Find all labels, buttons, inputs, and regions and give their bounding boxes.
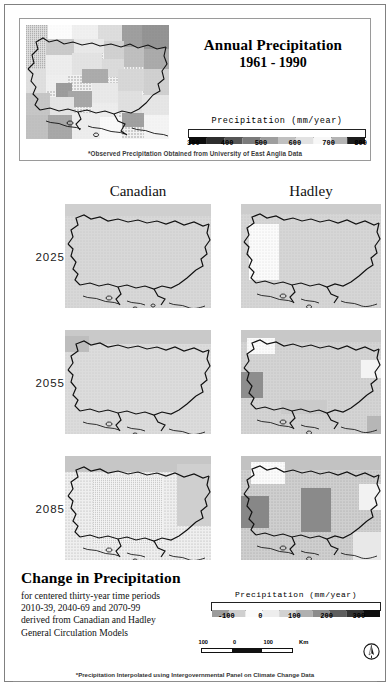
compass-rose-svg <box>363 643 380 660</box>
observed-tick-600: 600 <box>288 139 301 147</box>
scale-bar-graphic <box>201 648 293 653</box>
map-hadley-2085 <box>241 456 381 560</box>
map-canadian-2085-svg <box>65 456 211 560</box>
scale-bar-numbers: 100 0 100 <box>201 639 313 648</box>
map-canadian-2025 <box>65 204 211 308</box>
bottom-desc-line1: for centered thirty-year time periods <box>21 590 211 602</box>
observed-legend: Precipitation (mm/year) 300 400 <box>188 116 366 150</box>
observed-title-line2: 1961 - 1990 <box>180 54 366 71</box>
change-tick-300: 300 <box>353 612 366 620</box>
bottom-title: Change in Precipitation <box>21 569 181 587</box>
observed-title-line1: Annual Precipitation <box>180 37 366 54</box>
row-label-2085: 2085 <box>21 503 65 515</box>
change-tick-0: 0 <box>258 612 262 620</box>
observed-footnote: *Observed Precipitation Obtained from Un… <box>20 150 370 157</box>
map-hadley-2055 <box>241 330 381 434</box>
observed-precipitation-map <box>26 25 169 139</box>
scale-tick-zero: 0 <box>233 639 236 645</box>
map-hadley-2085-svg <box>241 456 381 560</box>
row-label-2025: 2025 <box>21 251 65 263</box>
map-hadley-2055-svg <box>241 330 381 434</box>
observed-tick-700: 700 <box>322 139 335 147</box>
observed-title-block: Annual Precipitation 1961 - 1990 <box>180 37 366 71</box>
change-tick-minus100: -100 <box>218 612 235 620</box>
observed-tick-300: 300 <box>187 139 200 147</box>
map-hadley-2025-svg <box>241 204 381 308</box>
poster-page: Annual Precipitation 1961 - 1990 Precipi… <box>4 4 386 682</box>
observed-legend-title: Precipitation (mm/year) <box>188 116 366 126</box>
map-canadian-2055 <box>65 330 211 434</box>
map-canadian-2025-svg <box>65 204 211 308</box>
change-legend-title: Precipitation (mm/year) <box>211 590 381 599</box>
map-canadian-2055-svg <box>65 330 211 434</box>
column-header-canadian: Canadian <box>65 183 211 200</box>
bottom-desc-line2: 2010-39, 2040-69 and 2070-99 <box>21 602 211 614</box>
map-canadian-2085 <box>65 456 211 560</box>
observed-tick-800: 800 <box>354 139 367 147</box>
scale-tick-left: 100 <box>199 639 208 645</box>
observed-map-svg <box>26 25 169 139</box>
observed-legend-ticks: 300 400 500 600 700 800 <box>188 139 366 150</box>
footer-divider <box>13 681 377 682</box>
scale-bar: 100 0 100 Km <box>201 639 313 653</box>
change-legend-ticks: -100 0 100 200 300 <box>211 612 381 623</box>
observed-tick-500: 500 <box>255 139 268 147</box>
observed-panel: Annual Precipitation 1961 - 1990 Precipi… <box>19 18 371 161</box>
bottom-desc-line4: General Circulation Models <box>21 627 211 639</box>
column-header-hadley: Hadley <box>241 183 381 200</box>
scale-unit-label: Km <box>299 639 308 645</box>
scale-tick-right: 100 <box>264 639 273 645</box>
observed-tick-400: 400 <box>221 139 234 147</box>
change-tick-200: 200 <box>320 612 333 620</box>
change-tick-100: 100 <box>288 612 301 620</box>
bottom-desc-line3: derived from Canadian and Hadley <box>21 614 211 626</box>
change-legend: Precipitation (mm/year) -100 0 100 200 3… <box>211 590 381 623</box>
compass-rose-icon <box>363 643 380 660</box>
bottom-footnote: *Precipitation Interpolated using Interg… <box>5 671 385 678</box>
map-hadley-2025 <box>241 204 381 308</box>
observed-legend-bar <box>188 129 366 138</box>
change-legend-bar <box>211 602 381 611</box>
row-label-2055: 2055 <box>21 377 65 389</box>
bottom-description: for centered thirty-year time periods 20… <box>21 590 211 639</box>
